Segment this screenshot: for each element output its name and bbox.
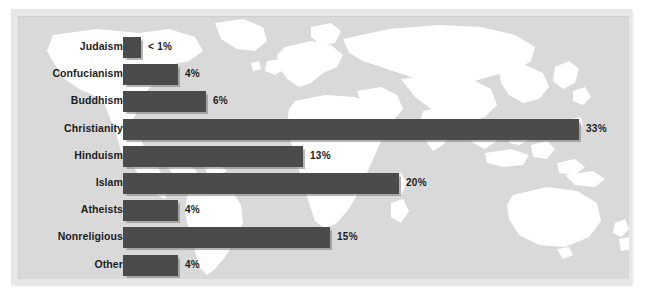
bar-value-label: 20% (406, 177, 427, 188)
bar-row: Other4% (19, 255, 629, 277)
bar-rect (123, 227, 330, 248)
bar-rect (123, 173, 399, 194)
bar-row: Islam20% (19, 173, 629, 195)
bar-value-label: 6% (213, 95, 228, 106)
bar-category-label: Confucianism (52, 67, 123, 79)
bar-rect (123, 119, 579, 140)
bar-category-label: Islam (96, 176, 123, 188)
bar-rect (123, 255, 178, 276)
bar-row: Buddhism6% (19, 91, 629, 113)
bar-rect (123, 91, 206, 112)
bar-rect (123, 64, 178, 85)
bar-category-label: Christianity (64, 122, 123, 134)
bar-rect (123, 146, 303, 167)
bars-layer: Judaism< 1%Confucianism4%Buddhism6%Chris… (19, 17, 629, 279)
bar-row: Hinduism13% (19, 146, 629, 168)
religion-share-bar-chart-figure: Judaism< 1%Confucianism4%Buddhism6%Chris… (0, 0, 652, 303)
bar-value-label: 4% (185, 204, 200, 215)
bar-rect (123, 37, 141, 58)
bar-row: Atheists4% (19, 200, 629, 222)
bar-row: Christianity33% (19, 119, 629, 141)
bar-value-label: 33% (586, 123, 607, 134)
bar-category-label: Judaism (80, 40, 123, 52)
bar-category-label: Hinduism (74, 149, 123, 161)
bar-value-label: 15% (337, 231, 358, 242)
bar-value-label: 4% (185, 259, 200, 270)
bar-value-label: 13% (310, 150, 331, 161)
chart-plot-area: Judaism< 1%Confucianism4%Buddhism6%Chris… (18, 16, 629, 279)
bar-value-label: < 1% (148, 41, 172, 52)
bar-category-label: Buddhism (71, 94, 123, 106)
bar-row: Confucianism4% (19, 64, 629, 86)
bar-category-label: Other (94, 258, 123, 270)
bar-row: Judaism< 1% (19, 37, 629, 59)
bar-row: Nonreligious15% (19, 227, 629, 249)
bar-value-label: 4% (185, 68, 200, 79)
bar-category-label: Nonreligious (58, 230, 123, 242)
bar-rect (123, 200, 178, 221)
bar-category-label: Atheists (81, 203, 123, 215)
